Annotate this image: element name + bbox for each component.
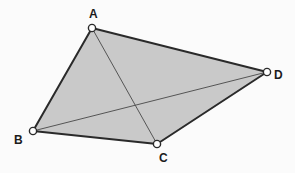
vertex-label-A: A xyxy=(89,8,98,20)
vertex-label-C: C xyxy=(159,152,168,164)
vertex-marker-C[interactable] xyxy=(153,140,160,147)
vertex-marker-B[interactable] xyxy=(29,127,36,134)
figure-canvas xyxy=(0,0,295,173)
vertex-marker-A[interactable] xyxy=(88,24,95,31)
vertex-label-D: D xyxy=(274,69,283,81)
geometry-figure: A B C D xyxy=(0,0,295,173)
vertex-label-B: B xyxy=(14,134,23,146)
vertex-marker-D[interactable] xyxy=(263,68,270,75)
